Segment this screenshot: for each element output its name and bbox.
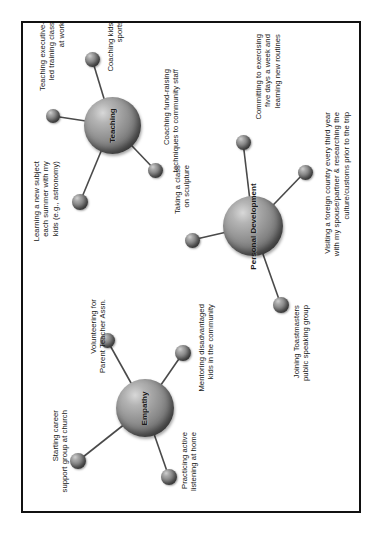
node-coaching-fundraising[interactable] bbox=[148, 163, 163, 178]
node-active-listening[interactable] bbox=[161, 469, 177, 485]
node-foreign-country[interactable] bbox=[298, 165, 313, 180]
node-mentoring[interactable] bbox=[175, 345, 191, 361]
label-sculpture-class: Taking a class on sculpture bbox=[173, 165, 192, 225]
node-career-support[interactable] bbox=[70, 453, 86, 469]
label-coaching-fundraising: Coaching fund-raising techniques to comm… bbox=[162, 69, 181, 179]
label-volunteering-pta: Volunteering for Parent Teacher Assn. bbox=[89, 299, 108, 383]
label-teaching-exec: Teaching executive- led training class a… bbox=[38, 22, 66, 118]
hub-personal-development-label: Personal Development bbox=[249, 183, 258, 269]
node-toastmasters[interactable] bbox=[273, 297, 289, 313]
node-sculpture-class[interactable] bbox=[185, 233, 200, 248]
hub-teaching[interactable]: Teaching bbox=[84, 97, 141, 154]
label-active-listening: Practicing active listening at home bbox=[180, 432, 199, 508]
node-exercising[interactable] bbox=[236, 135, 251, 150]
node-learning-subject[interactable] bbox=[72, 194, 88, 210]
diagram-canvas: Teaching Teaching executive- led trainin… bbox=[0, 0, 381, 539]
label-toastmasters: Joining Toastmasters public speaking gro… bbox=[292, 305, 311, 395]
node-coaching-sports[interactable] bbox=[85, 52, 100, 67]
mind-map: Teaching Teaching executive- led trainin… bbox=[0, 0, 381, 539]
label-career-support: Starting career support group at church bbox=[51, 410, 70, 500]
label-learning-subject: Learning a new subject each summer with … bbox=[32, 161, 60, 257]
hub-empathy-label: Empathy bbox=[140, 391, 149, 425]
hub-personal-development[interactable]: Personal Development bbox=[223, 196, 283, 256]
label-coaching-sports: Coaching kids' sports bbox=[106, 21, 125, 81]
hub-empathy[interactable]: Empathy bbox=[116, 379, 174, 437]
hub-teaching-label: Teaching bbox=[108, 108, 117, 143]
label-foreign-country: Visiting a foreign country every third y… bbox=[323, 112, 351, 272]
label-mentoring: Mentoring disadvantaged kids in the comm… bbox=[197, 304, 216, 414]
label-exercising: Committing to exercising five days a wee… bbox=[254, 34, 282, 128]
